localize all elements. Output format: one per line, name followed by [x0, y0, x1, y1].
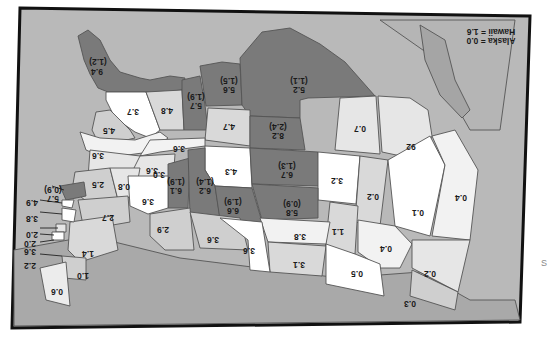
- label-illinois: 0.2: [367, 192, 379, 202]
- label-minnesota: 0.7: [354, 124, 366, 134]
- label-new-england-2: 4.9: [26, 198, 38, 208]
- label-mississippi: 3.6: [243, 246, 255, 256]
- label-wyoming: 4.7: [223, 122, 235, 132]
- label-indiana: 1.1: [332, 227, 344, 237]
- label-missouri-sub: (0.9): [283, 199, 301, 209]
- label-ohio: 0.4: [455, 193, 467, 203]
- label-north-carolina: 0.6: [51, 287, 63, 297]
- label-montana-west-sub: (1.9): [187, 92, 205, 102]
- label-virginia: 0.3: [404, 299, 416, 309]
- label-washington-sub: (1.2): [89, 57, 107, 67]
- label-south-dakota-sub: (2.4): [269, 122, 287, 132]
- label-idaho: 4.8: [161, 106, 173, 116]
- label-kansas-sub: (1.4): [196, 177, 214, 187]
- label-nevada: 3.6: [92, 151, 104, 161]
- label-arkansas: 3.1: [293, 260, 305, 270]
- label-oklahoma-north-sub: (1.9): [224, 197, 242, 207]
- label-pennsylvania: 0.2: [424, 269, 436, 279]
- label-florida: 1.4: [82, 249, 94, 259]
- label-texas-central: 0.8: [118, 182, 130, 192]
- label-texas-west: 2.5: [92, 180, 104, 190]
- label-montana-east-sub: (1.5): [220, 76, 238, 86]
- label-tennessee: 3.8: [294, 232, 306, 242]
- stray-text: S: [541, 258, 547, 268]
- label-oregon: 3.7: [127, 107, 139, 117]
- region-new-england-5[interactable]: [52, 232, 64, 240]
- label-oklahoma: 2.9: [157, 225, 169, 235]
- label-wisconsin: 92: [406, 142, 416, 152]
- label-georgia: 2.7: [102, 213, 114, 223]
- label-iowa: 3.2: [331, 176, 343, 186]
- label-california-north: 4.5: [103, 126, 115, 136]
- label-nebraska-sub: (1.3): [278, 161, 296, 171]
- region-new-england-2[interactable]: [62, 200, 74, 208]
- map-figure: 9.4 (1.2) 3.7 4.8 5.7 (1.9) 5.6 (1.5) 5.…: [0, 0, 553, 344]
- label-new-england-7: 2.2: [24, 261, 36, 271]
- label-arizona: 3.0: [153, 170, 165, 180]
- label-kentucky: 0.4: [380, 244, 392, 254]
- label-new-england-1-sub: (0.9): [44, 185, 62, 195]
- label-louisiana: 3.6: [207, 235, 219, 245]
- label-new-mexico-sub: (1.9): [167, 177, 185, 187]
- label-utah: 3.6: [173, 144, 185, 154]
- label-colorado: 4.3: [225, 167, 237, 177]
- label-south-carolina: 1.0: [77, 271, 89, 281]
- label-north-dakota-sub: (1.1): [290, 76, 308, 86]
- label-new-england-4: 2.0: [26, 230, 38, 240]
- label-michigan: 0.1: [412, 208, 424, 218]
- label-alabama: 0.5: [351, 269, 363, 279]
- label-new-england-6: 3.6: [24, 247, 36, 257]
- label-new-england-3: 3.8: [26, 214, 38, 224]
- label-washington: 9.4: [91, 67, 103, 77]
- hawaii-note: Hawaii = 1.6: [467, 27, 516, 37]
- label-texas-north: 3.6: [142, 197, 154, 207]
- region-new-england-3[interactable]: [62, 208, 76, 222]
- legend-note: Alaska = 0.0 Hawaii = 1.6: [466, 27, 515, 46]
